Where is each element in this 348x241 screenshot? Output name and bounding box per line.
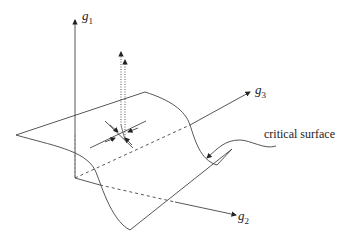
- g2-axis-near: [75, 178, 100, 185]
- diagram-figure: [0, 0, 348, 241]
- g2-axis: [175, 202, 236, 215]
- critical-surface: [16, 92, 232, 230]
- g3-axis: [190, 92, 250, 125]
- g3-axis-hidden: [75, 125, 190, 178]
- g2-label: g2: [238, 208, 249, 226]
- critical-surface-label: critical surface: [264, 127, 335, 142]
- g2-axis-hidden: [100, 185, 175, 202]
- g3-label: g3: [255, 82, 266, 100]
- g1-label: g1: [82, 8, 93, 26]
- diagram-canvas: g1 g3 g2 critical surface: [0, 0, 348, 241]
- annotation-leader: [207, 140, 276, 158]
